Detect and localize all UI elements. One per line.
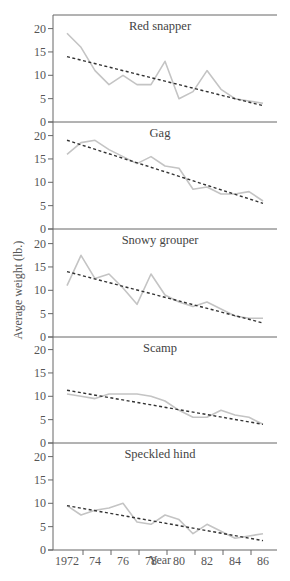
y-tick-label: 20	[34, 237, 46, 251]
y-tick-label: 10	[34, 175, 46, 189]
y-tick-label: 0	[40, 222, 46, 236]
observed-series-line	[67, 33, 263, 103]
y-tick-label: 20	[34, 22, 46, 36]
y-tick-label: 20	[34, 450, 46, 464]
observed-series-line	[67, 255, 263, 318]
chart-panels: 05101520Red snapper05101520Gag05101520Sn…	[34, 15, 277, 557]
y-tick-label: 15	[34, 366, 46, 380]
x-tick-label: 74	[89, 554, 101, 568]
y-tick-label: 10	[34, 496, 46, 510]
panel-gag: 05101520Gag	[34, 122, 277, 236]
x-tick-label: 82	[201, 554, 213, 568]
y-tick-label: 15	[34, 45, 46, 59]
y-tick-label: 0	[40, 436, 46, 450]
panel-title: Speckled hind	[124, 447, 196, 461]
panel-red-snapper: 05101520Red snapper	[34, 15, 277, 129]
y-tick-label: 10	[34, 389, 46, 403]
y-tick-label: 10	[34, 283, 46, 297]
stacked-line-chart: 05101520Red snapper05101520Gag05101520Sn…	[0, 0, 290, 581]
x-tick-label: 80	[173, 554, 185, 568]
y-tick-label: 15	[34, 152, 46, 166]
x-tick-label: 76	[117, 554, 129, 568]
y-tick-label: 0	[40, 543, 46, 557]
y-tick-label: 15	[34, 473, 46, 487]
y-tick-label: 20	[34, 343, 46, 357]
y-tick-label: 5	[40, 413, 46, 427]
y-tick-label: 10	[34, 68, 46, 82]
panel-scamp: 05101520Scamp	[34, 337, 277, 450]
y-tick-label: 5	[40, 92, 46, 106]
y-axis-title: Average weight (lb.)	[11, 241, 25, 340]
y-tick-label: 20	[34, 129, 46, 143]
observed-series-line	[67, 394, 263, 424]
panel-title: Red snapper	[129, 19, 192, 33]
x-tick-label: 1972	[55, 554, 79, 568]
panel-title: Gag	[150, 126, 172, 140]
x-axis-title: Year	[149, 553, 171, 567]
panel-title: Snowy grouper	[122, 233, 200, 247]
x-tick-label: 84	[229, 554, 241, 568]
y-tick-label: 0	[40, 115, 46, 129]
y-tick-label: 5	[40, 520, 46, 534]
y-tick-label: 15	[34, 260, 46, 274]
y-tick-label: 5	[40, 307, 46, 321]
trend-line	[67, 390, 263, 424]
panel-speckled-hind: 05101520Speckled hind	[34, 443, 277, 557]
observed-series-line	[67, 503, 263, 538]
y-tick-label: 5	[40, 199, 46, 213]
trend-line	[67, 57, 263, 106]
panel-snowy-grouper: 05101520Snowy grouper	[34, 229, 277, 344]
panel-title: Scamp	[143, 341, 177, 355]
trend-line	[67, 272, 263, 323]
trend-line	[67, 506, 263, 541]
observed-series-line	[67, 140, 263, 201]
x-tick-label: 86	[257, 554, 269, 568]
